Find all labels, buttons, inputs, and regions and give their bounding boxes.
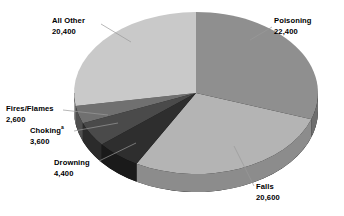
slice-label-drowning-name: Drowning [54,158,90,169]
slice-label-choking-text: Choking [30,126,61,135]
footnote-marker-choking: a [61,124,64,130]
slice-label-falls-value: 20,600 [256,193,280,204]
slice-label-poisoning-value: 22,400 [274,27,312,38]
pie-slice-all-other[interactable] [74,12,196,106]
slice-label-fires-flames: Fires/Flames 2,600 [6,104,54,125]
slice-label-choking-name: Chokinga [30,126,64,137]
slice-label-poisoning: Poisoning 22,400 [274,16,312,37]
slice-label-drowning-value: 4,400 [54,169,90,180]
slice-label-falls: Falls 20,600 [256,182,280,203]
slice-label-all-other-value: 20,400 [52,27,85,38]
slice-label-falls-name: Falls [256,182,280,193]
slice-label-poisoning-name: Poisoning [274,16,312,27]
slice-label-choking: Chokinga 3,600 [30,126,64,147]
slice-label-all-other: All Other 20,400 [52,16,85,37]
slice-label-fires-flames-name: Fires/Flames [6,104,54,115]
slice-label-choking-value: 3,600 [30,137,64,148]
pie-chart-figure: All Other 20,400 Poisoning 22,400 Fires/… [0,0,344,216]
slice-label-drowning: Drowning 4,400 [54,158,90,179]
slice-label-fires-flames-value: 2,600 [6,115,54,126]
slice-label-all-other-name: All Other [52,16,85,27]
